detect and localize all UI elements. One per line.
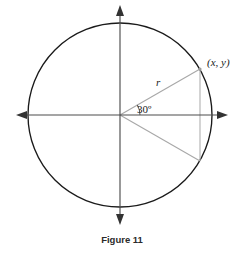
figure-caption: Figure 11 (101, 234, 143, 245)
x-axis-arrow-left (16, 111, 27, 119)
unit-circle-diagram: (x, y) r 30º Figure 11 (0, 0, 244, 253)
point-coordinates-label: (x, y) (207, 56, 230, 69)
y-axis-arrow-down (116, 214, 124, 225)
figure-container: (x, y) r 30º Figure 11 (0, 0, 244, 253)
radius-ray-lower (120, 115, 200, 161)
angle-measure-label: 30º (137, 103, 152, 115)
y-axis-arrow-up (116, 5, 124, 16)
x-axis-arrow-right (217, 111, 228, 119)
terminal-point-marker (198, 67, 201, 70)
radius-label: r (156, 76, 161, 88)
